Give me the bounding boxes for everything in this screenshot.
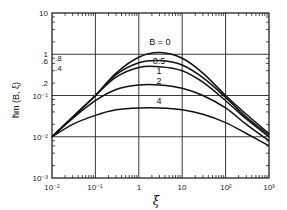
curve-b-2 xyxy=(52,84,269,140)
curve-label-b0: B = 0 xyxy=(149,37,170,47)
x-axis-title: ξ xyxy=(153,194,161,208)
y-tick-label: 10⁻³ xyxy=(32,174,48,183)
x-tick-label: 10² xyxy=(220,183,232,192)
x-tick-label: 10³ xyxy=(263,183,275,192)
y-minor-tick-label: .6 xyxy=(41,57,48,66)
curve-b-4 xyxy=(52,108,269,146)
x-tick-label: 1 xyxy=(137,183,142,192)
y-tick-label: 10⁻¹ xyxy=(32,92,48,101)
y-minor-tick-label: .8 xyxy=(55,54,62,63)
curve-label-b1: 1 xyxy=(156,66,161,76)
y-minor-tick-label: .2 xyxy=(41,79,48,88)
x-tick-label: 10⁻² xyxy=(44,183,60,192)
x-tick-label: 10 xyxy=(178,183,187,192)
y-tick-label: 10⁻² xyxy=(32,133,48,142)
curve-label-b4: 4 xyxy=(156,96,161,106)
curve-label-b2: 2 xyxy=(156,76,161,86)
x-tick-label: 10⁻¹ xyxy=(87,183,103,192)
chart-svg: 10⁻² 10⁻¹ 1 10 10² 10³ 10 1 10⁻¹ 10⁻² 10… xyxy=(0,0,287,210)
y-tick-label: 10 xyxy=(39,9,48,18)
y-minor-tick-label: .4 xyxy=(55,64,62,73)
y-axis-title: h̄m (B, ξ) xyxy=(11,82,21,118)
curve-label-b0-5: 0.5 xyxy=(153,56,166,66)
